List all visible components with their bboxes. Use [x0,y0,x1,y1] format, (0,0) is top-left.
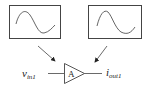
output-waveform-box [89,6,142,39]
input-label: vin1 [22,67,36,81]
amplifier-symbol: A [65,64,85,84]
amplifier-label: A [68,69,75,79]
input-waveform-box [10,6,61,39]
output-label: iout1 [106,66,122,80]
output-arrow [95,46,107,62]
input-arrow [38,46,55,61]
amplifier-diagram: A vin1 iout1 [0,0,149,91]
